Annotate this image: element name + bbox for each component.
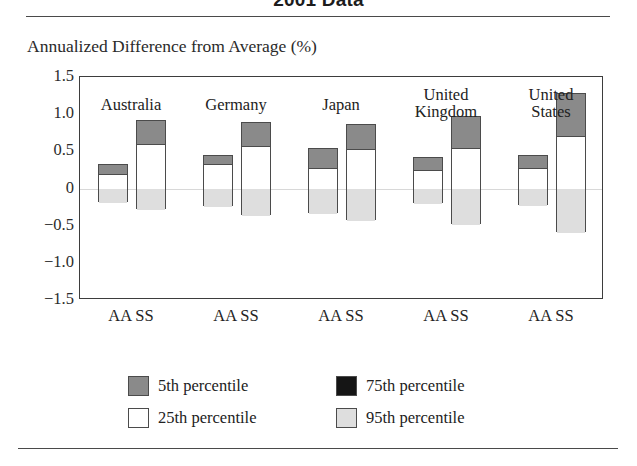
- percentile-bar: [413, 157, 443, 203]
- legend-item: 95th percentile: [336, 408, 465, 428]
- y-tick-label: −0.5: [44, 215, 74, 235]
- percentile-bar: [203, 155, 233, 206]
- top-rule: [26, 16, 610, 17]
- legend-swatch-p25: [128, 408, 149, 428]
- percentile-bar: [451, 116, 481, 225]
- legend-item: 75th percentile: [336, 376, 465, 396]
- legend: 5th percentile75th percentile25th percen…: [128, 376, 518, 438]
- legend-label: 5th percentile: [158, 376, 248, 396]
- y-tick-label: 1.5: [53, 66, 74, 86]
- segment-5th-percentile: [137, 121, 165, 145]
- segment-95th-percentile: [414, 189, 442, 204]
- segment-95th-percentile: [347, 189, 375, 220]
- segment-5th-percentile: [347, 125, 375, 150]
- segment-95th-percentile: [137, 189, 165, 210]
- segment-95th-percentile: [452, 189, 480, 225]
- percentile-bar: [518, 155, 548, 205]
- group-label: Australia: [101, 96, 161, 113]
- figure-title: 2001 Data: [0, 0, 637, 11]
- y-axis-tick-labels: 1.51.00.50−0.5−1.0−1.5: [18, 76, 74, 299]
- group-label: Germany: [205, 96, 266, 113]
- legend-label: 25th percentile: [158, 408, 257, 428]
- percentile-bar: [98, 164, 128, 202]
- legend-swatch-p5: [128, 376, 149, 396]
- y-axis-caption: Annualized Difference from Average (%): [27, 36, 317, 57]
- y-tick-label: 0: [66, 178, 74, 198]
- segment-95th-percentile: [99, 189, 127, 202]
- segment-5th-percentile: [414, 158, 442, 171]
- segment-5th-percentile: [309, 149, 337, 169]
- x-tick-label: AA SS: [423, 306, 468, 326]
- segment-95th-percentile: [242, 189, 270, 215]
- segment-95th-percentile: [519, 189, 547, 205]
- segment-5th-percentile: [242, 123, 270, 148]
- x-tick-label: AA SS: [318, 306, 363, 326]
- y-tick-label: 0.5: [53, 140, 74, 160]
- segment-5th-percentile: [99, 165, 127, 175]
- segment-95th-percentile: [557, 189, 585, 232]
- group-label: United Kingdom: [415, 86, 477, 121]
- segment-25th-percentile: [137, 145, 165, 193]
- group-label: United States: [529, 86, 574, 121]
- percentile-bar: [308, 148, 338, 213]
- legend-item: 25th percentile: [128, 408, 257, 428]
- legend-swatch-p95: [336, 408, 357, 428]
- percentile-bar: [136, 120, 166, 209]
- segment-95th-percentile: [204, 189, 232, 206]
- segment-5th-percentile: [204, 156, 232, 165]
- legend-swatch-p75: [336, 376, 357, 396]
- legend-label: 75th percentile: [366, 376, 465, 396]
- y-tick-label: −1.0: [44, 252, 74, 272]
- segment-5th-percentile: [519, 156, 547, 169]
- x-tick-label: AA SS: [213, 306, 258, 326]
- y-tick-label: −1.5: [44, 289, 74, 309]
- percentile-bar: [346, 124, 376, 220]
- x-tick-label: AA SS: [528, 306, 573, 326]
- segment-95th-percentile: [309, 189, 337, 214]
- legend-label: 95th percentile: [366, 408, 465, 428]
- segment-5th-percentile: [452, 117, 480, 149]
- legend-item: 5th percentile: [128, 376, 248, 396]
- group-label: Japan: [322, 96, 360, 113]
- x-tick-label: AA SS: [108, 306, 153, 326]
- bottom-rule: [18, 448, 618, 449]
- percentile-bar: [241, 122, 271, 215]
- y-tick-label: 1.0: [53, 103, 74, 123]
- figure-root: 2001 Data Annualized Difference from Ave…: [0, 0, 637, 466]
